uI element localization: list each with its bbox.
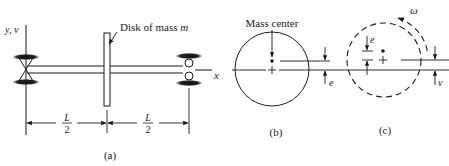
figure-c: ω e v (c)	[340, 4, 449, 137]
left-bearing-icon	[13, 54, 39, 85]
svg-text:L: L	[63, 112, 70, 123]
geometric-center-cross	[268, 66, 276, 74]
x-axis-label: x	[213, 69, 219, 81]
disk-label: Disk of mass m	[120, 21, 188, 33]
dim-left-fraction: L 2	[62, 112, 72, 135]
omega-rotation-arrow	[398, 18, 428, 55]
y-v-axis-label: y, v	[4, 24, 19, 35]
dim-right-fraction: L 2	[143, 112, 153, 135]
omega-label: ω	[410, 4, 418, 16]
svg-text:L: L	[144, 112, 151, 123]
figure-b: Mass center e (b)	[232, 17, 340, 139]
figure-a: y, v x Disk of mass m	[4, 21, 219, 162]
e-label-c: e	[370, 34, 375, 45]
e-label-b: e	[329, 77, 334, 88]
rotor-diagram: y, v x Disk of mass m	[0, 0, 449, 166]
geometric-center-cross-c	[379, 56, 387, 64]
caption-a: (a)	[104, 149, 117, 162]
v-label: v	[438, 77, 443, 88]
caption-b: (b)	[270, 126, 283, 139]
mass-center-label: Mass center	[246, 17, 299, 29]
svg-text:2: 2	[65, 124, 70, 135]
svg-text:2: 2	[146, 124, 151, 135]
mass-center-dot-c	[381, 49, 385, 53]
mass-center-dot	[270, 59, 274, 63]
caption-c: (c)	[379, 124, 392, 137]
